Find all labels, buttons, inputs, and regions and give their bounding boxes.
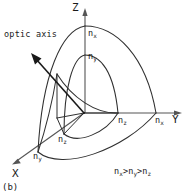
section-arc-outer [38, 74, 57, 152]
ny-on-x-axis-sub: y [38, 155, 42, 162]
z-axis-label: Z [72, 2, 79, 13]
nx-on-y-axis-sub: x [160, 119, 164, 126]
x-axis-label: X [12, 168, 19, 179]
y-axis-label: Y [172, 114, 179, 125]
inner-arc-zy [85, 55, 118, 113]
nz-on-x-axis-label: nz [58, 135, 67, 144]
nx-on-z-axis-label: nx [88, 29, 97, 38]
ny-on-x-axis-label: ny [33, 152, 42, 161]
outer-arc-xy [38, 113, 156, 160]
x-axis-arrowhead [12, 159, 21, 165]
relation-s2: y [133, 170, 137, 177]
outer-ellipsoid-octant [38, 26, 156, 160]
optic-axis-label: optic axis [4, 30, 57, 39]
origin-point [83, 112, 85, 114]
x-axis-line [18, 113, 84, 160]
nz-on-y-axis-sub: z [123, 119, 127, 126]
nx-on-z-axis-sub: x [93, 32, 97, 39]
z-axis-arrowhead [82, 8, 87, 16]
index-ellipsoid-figure: Z Y X optic axis nx ny nz nx nz ny nx>ny… [0, 0, 188, 195]
nz-on-y-axis-label: nz [118, 116, 127, 125]
relation-n3: n [142, 166, 147, 176]
figure-caption: (b) [2, 183, 18, 192]
relation-s3: z [148, 170, 152, 177]
ny-on-z-axis-sub: y [93, 55, 97, 62]
outer-arc-zy [85, 26, 156, 113]
nz-on-x-axis-sub: z [63, 138, 67, 145]
index-relation-label: nx>ny>nz [114, 167, 151, 176]
ny-on-z-axis-label: ny [88, 52, 97, 61]
relation-s1: x [119, 170, 123, 177]
nx-on-y-axis-label: nx [155, 116, 164, 125]
